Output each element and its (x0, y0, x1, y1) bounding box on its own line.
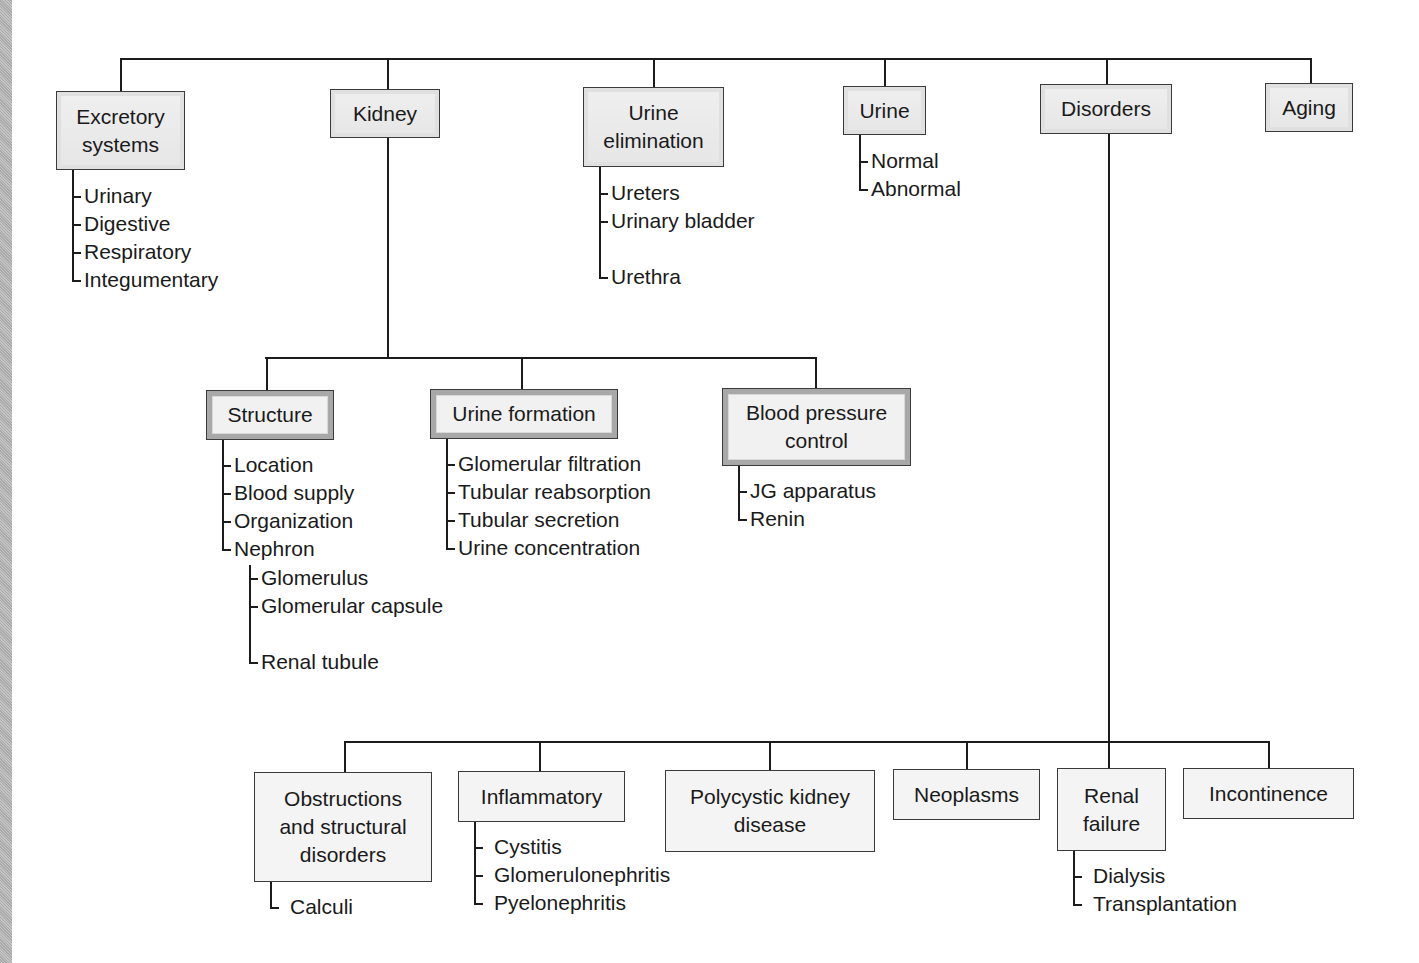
list-item: Blood supply (234, 479, 354, 507)
child-bar-line (72, 170, 74, 281)
list-item: Tubular secretion (458, 506, 619, 534)
list-item: Renin (750, 505, 805, 533)
disorder-drop-line (769, 741, 771, 770)
disorder-drop-line (966, 741, 968, 769)
list-item: Urinary bladder (611, 207, 755, 235)
list-item: Urinary (84, 182, 152, 210)
disorder-drop-line (539, 741, 541, 771)
top-drop-line (653, 58, 655, 87)
list-item: Digestive (84, 210, 170, 238)
child-bar-line (599, 167, 601, 278)
node-obstructions: Obstructions and structural disorders (254, 772, 432, 882)
nephron-item: Glomerulus (261, 564, 368, 592)
list-item: Glomerulonephritis (494, 861, 670, 889)
list-item: Nephron (234, 535, 315, 563)
child-bar-line (859, 135, 861, 190)
list-item: Dialysis (1093, 862, 1165, 890)
kidney-drop-line (521, 357, 523, 389)
list-item: Respiratory (84, 238, 191, 266)
list-item: Urethra (611, 263, 681, 291)
list-item: Pyelonephritis (494, 889, 626, 917)
node-inflammatory: Inflammatory (458, 771, 625, 822)
child-bar-line (446, 439, 448, 549)
list-item: Abnormal (871, 175, 961, 203)
disorder-drop-line (1108, 741, 1110, 768)
node-urine: Urine (843, 86, 926, 135)
list-item: Tubular reabsorption (458, 478, 651, 506)
child-bar-line (738, 466, 740, 520)
list-item: Urine concentration (458, 534, 640, 562)
node-kidney: Kidney (330, 89, 440, 138)
node-urine-formation: Urine formation (430, 389, 618, 439)
list-item: Organization (234, 507, 353, 535)
disorders-bus-line (344, 741, 1269, 743)
list-item: Location (234, 451, 313, 479)
child-bar-line (1073, 851, 1075, 905)
list-item: Transplantation (1093, 890, 1237, 918)
list-item: Integumentary (84, 266, 218, 294)
node-structure: Structure (206, 390, 334, 440)
child-bar-line (222, 440, 224, 550)
kidney-bus-line (265, 357, 816, 359)
node-polycystic: Polycystic kidney disease (665, 770, 875, 852)
top-bus-line (120, 58, 1311, 60)
list-item: Cystitis (494, 833, 562, 861)
node-blood-pressure-control: Blood pressure control (722, 388, 911, 466)
list-item: Ureters (611, 179, 680, 207)
node-excretory: Excretory systems (56, 91, 185, 170)
node-disorders: Disorders (1040, 84, 1172, 134)
top-drop-line (387, 58, 389, 89)
disorders-trunk-line (1108, 134, 1110, 742)
nephron-item: Renal tubule (261, 648, 379, 676)
node-incontinence: Incontinence (1183, 768, 1354, 819)
node-neoplasms: Neoplasms (893, 769, 1040, 820)
nephron-bar-line (249, 565, 251, 663)
node-renal-failure: Renal failure (1057, 768, 1166, 851)
top-drop-line (1310, 58, 1312, 83)
top-drop-line (884, 58, 886, 86)
node-urine-elimination: Urine elimination (583, 87, 724, 167)
disorder-drop-line (1268, 741, 1270, 768)
top-drop-line (120, 58, 122, 91)
kidney-drop-line (815, 357, 817, 388)
list-item: JG apparatus (750, 477, 876, 505)
list-item: Normal (871, 147, 939, 175)
child-bar-line (270, 882, 272, 908)
child-bar-line (474, 822, 476, 904)
list-item: Glomerular filtration (458, 450, 641, 478)
kidney-drop-line (266, 357, 268, 390)
disorder-drop-line (344, 741, 346, 772)
concept-map: Excretory systemsUrinaryDigestiveRespira… (0, 0, 1419, 963)
nephron-item: Glomerular capsule (261, 592, 443, 620)
list-item: Calculi (290, 893, 353, 921)
kidney-trunk-line (387, 138, 389, 358)
node-aging: Aging (1265, 83, 1353, 132)
top-drop-line (1106, 58, 1108, 84)
